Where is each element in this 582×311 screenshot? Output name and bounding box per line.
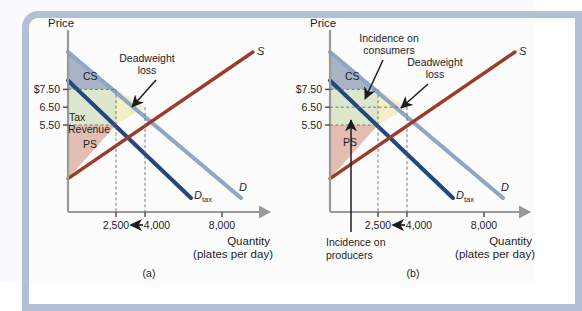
y-tick-label-650: 6.50	[40, 101, 61, 113]
demand-tax-label-sub: tax	[202, 195, 212, 204]
demand-curve-label: D	[239, 181, 247, 193]
demand-tax-label-sub: tax	[464, 195, 474, 204]
annotation-incidence-consumers-line2: consumers	[363, 44, 414, 56]
chart-panel-a: $7.50 6.50 5.50 2,500 4,000 8,000 Price …	[20, 0, 278, 283]
annotation-incidence-consumers-line1: Incidence on	[359, 32, 419, 44]
y-tick-label-550: 5.50	[40, 119, 61, 131]
chart-panel-b: $7.50 6.50 5.50 2,500 4,000 8,000 Price …	[285, 0, 535, 283]
x-tick-label-2500: 2,500	[365, 219, 391, 231]
x-tick-label-8000: 8,000	[471, 219, 497, 231]
label-producer-surplus: PS	[83, 138, 97, 150]
x-tick-label-4000: 4,000	[406, 219, 432, 231]
demand-tax-curve-label: Dtax	[456, 189, 474, 204]
supply-curve-label: S	[519, 45, 527, 57]
annotation-deadweight-loss-line1: Deadweight	[407, 56, 463, 68]
annotation-deadweight-loss-line2: loss	[426, 68, 445, 80]
demand-tax-label-main: D	[194, 189, 202, 201]
label-tax-revenue-line2: Revenue	[68, 123, 110, 135]
y-tick-label-750: $7.50	[34, 83, 60, 95]
panel-b-caption: (b)	[407, 267, 420, 279]
x-tick-label-2500: 2,500	[103, 219, 129, 231]
y-tick-label-650: 6.50	[302, 101, 323, 113]
y-axis-title: Price	[48, 17, 74, 29]
annotation-deadweight-loss-arrow	[401, 84, 428, 108]
demand-curve-label: D	[501, 181, 509, 193]
label-consumer-surplus: CS	[345, 70, 360, 82]
panel-b-svg: $7.50 6.50 5.50 2,500 4,000 8,000 Price …	[285, 0, 535, 283]
label-producer-surplus: PS	[343, 136, 357, 148]
demand-tax-label-main: D	[456, 189, 464, 201]
label-tax-revenue-line1: Tax	[69, 111, 86, 123]
annotation-incidence-producers-line1: Incidence on	[326, 236, 386, 248]
label-consumer-surplus: CS	[83, 70, 98, 82]
x-tick-label-4000: 4,000	[144, 219, 170, 231]
y-tick-label-550: 5.50	[302, 119, 323, 131]
x-tick-label-8000: 8,000	[209, 219, 235, 231]
annotation-deadweight-loss-line2: loss	[138, 64, 157, 76]
demand-tax-curve-label: Dtax	[194, 189, 212, 204]
annotation-deadweight-loss-line1: Deadweight	[119, 52, 175, 64]
x-axis-title: Quantity	[489, 235, 532, 247]
region-incidence-producers	[330, 107, 378, 125]
panel-a-svg: $7.50 6.50 5.50 2,500 4,000 8,000 Price …	[20, 0, 278, 283]
annotation-incidence-producers-line2: producers	[326, 249, 373, 261]
panel-a-caption: (a)	[143, 267, 156, 279]
x-axis-title: Quantity	[227, 235, 270, 247]
supply-curve-label: S	[257, 45, 265, 57]
x-axis-title-units: (plates per day)	[455, 248, 535, 260]
x-axis-title-units: (plates per day)	[193, 248, 273, 260]
annotation-deadweight-loss-arrow	[132, 80, 156, 107]
y-tick-label-750: $7.50	[296, 83, 322, 95]
y-axis-title: Price	[310, 17, 336, 29]
